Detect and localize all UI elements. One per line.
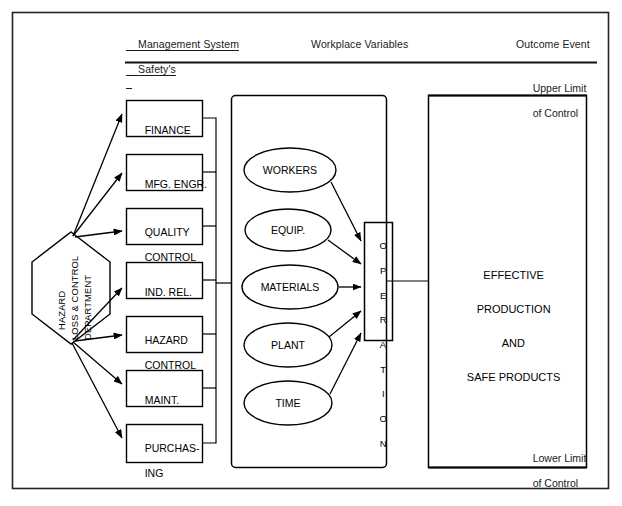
dept-label-maint: MAINT. — [133, 382, 179, 419]
arrow-hex-to-maint — [73, 342, 122, 384]
lower-limit-label: Lower Limit of Control — [521, 440, 586, 502]
upper-limit-label: Upper Limit of Control — [521, 70, 586, 132]
outcome-text: EFFECTIVE PRODUCTION AND SAFE PRODUCTS — [429, 250, 586, 403]
variable-label-equipment: EQUIP. — [245, 224, 331, 236]
dept-line2: ING — [145, 467, 164, 479]
column-header-workplace-variables: Workplace Variables — [299, 26, 408, 63]
arrow-equipment-to-operation — [328, 240, 361, 264]
lower-limit-line2: of Control — [533, 477, 579, 489]
dept-line1: PURCHAS- — [145, 442, 200, 454]
operation-letter: T — [380, 364, 386, 375]
outcome-line3: AND — [502, 337, 525, 349]
variable-label-materials: MATERIALS — [242, 281, 338, 293]
dept-line2: CONTROL — [145, 359, 196, 371]
operation-letter: O — [380, 413, 387, 424]
dept-line1: IND. REL. — [145, 286, 192, 298]
dept-label-quality-control: QUALITY CONTROL — [133, 214, 196, 276]
operation-letter: I — [382, 388, 385, 399]
variable-label-time: TIME — [244, 397, 332, 409]
operation-letter: N — [380, 438, 387, 449]
dept-label-mfg-engr: MFG. ENGR. — [133, 166, 207, 203]
hexagon-label-hazard: HAZARD — [57, 291, 67, 330]
dept-line1: HAZARD — [145, 334, 188, 346]
variable-label-plant: PLANT — [244, 339, 332, 351]
operation-letter: O — [380, 240, 387, 251]
dept-line2: CONTROL — [145, 251, 196, 263]
diagram-canvas: Management System Safety's Workplace Var… — [0, 0, 622, 506]
dept-line1: FINANCE — [145, 124, 191, 136]
outcome-line4: SAFE PRODUCTS — [467, 371, 561, 383]
column-header-line1: Workplace Variables — [311, 38, 408, 50]
variable-label-workers: WORKERS — [244, 164, 336, 176]
hexagon-label-loss-and-control: LOSS & CONTROL — [70, 256, 80, 340]
outcome-line2: PRODUCTION — [477, 303, 551, 315]
arrow-time-to-operation — [330, 333, 361, 394]
outcome-line1: EFFECTIVE — [483, 269, 544, 281]
arrow-hex-to-ind-rel — [73, 288, 122, 340]
dept-line1: MFG. ENGR. — [145, 178, 207, 190]
dept-label-finance: FINANCE — [133, 112, 191, 149]
dept-label-ind-rel: IND. REL. — [133, 274, 192, 311]
arrow-workers-to-operation — [331, 182, 361, 241]
arrow-hex-to-finance — [73, 114, 122, 236]
dept-label-purchasing: PURCHAS- ING — [133, 430, 200, 492]
arrow-hex-to-mfg-engr — [73, 173, 122, 236]
operation-letter: P — [380, 265, 386, 276]
hexagon-label-department: DEPARTMENT — [83, 275, 93, 340]
column-header-line2: Safety's — [138, 63, 176, 75]
column-header-outcome-event: Outcome Event — [504, 26, 590, 63]
dept-line1: MAINT. — [145, 394, 179, 406]
arrow-plant-to-operation — [329, 311, 361, 337]
upper-limit-line2: of Control — [533, 107, 579, 119]
lower-limit-line1: Lower Limit — [533, 452, 587, 464]
column-header-management-system: Management System Safety's — [126, 26, 239, 88]
upper-limit-line1: Upper Limit — [533, 82, 587, 94]
dept-line1: QUALITY — [145, 226, 190, 238]
arrow-hex-to-purchasing — [72, 343, 122, 438]
operation-label: O P E R A T I O N — [364, 228, 392, 463]
operation-letter: E — [380, 290, 386, 301]
column-header-line1: Outcome Event — [516, 38, 590, 50]
dept-label-hazard-control: HAZARD CONTROL — [133, 322, 196, 384]
column-header-line1: Management System — [138, 38, 239, 50]
arrow-hex-to-quality-control — [75, 231, 122, 237]
operation-letter: R — [380, 314, 387, 325]
operation-letter: A — [380, 339, 386, 350]
